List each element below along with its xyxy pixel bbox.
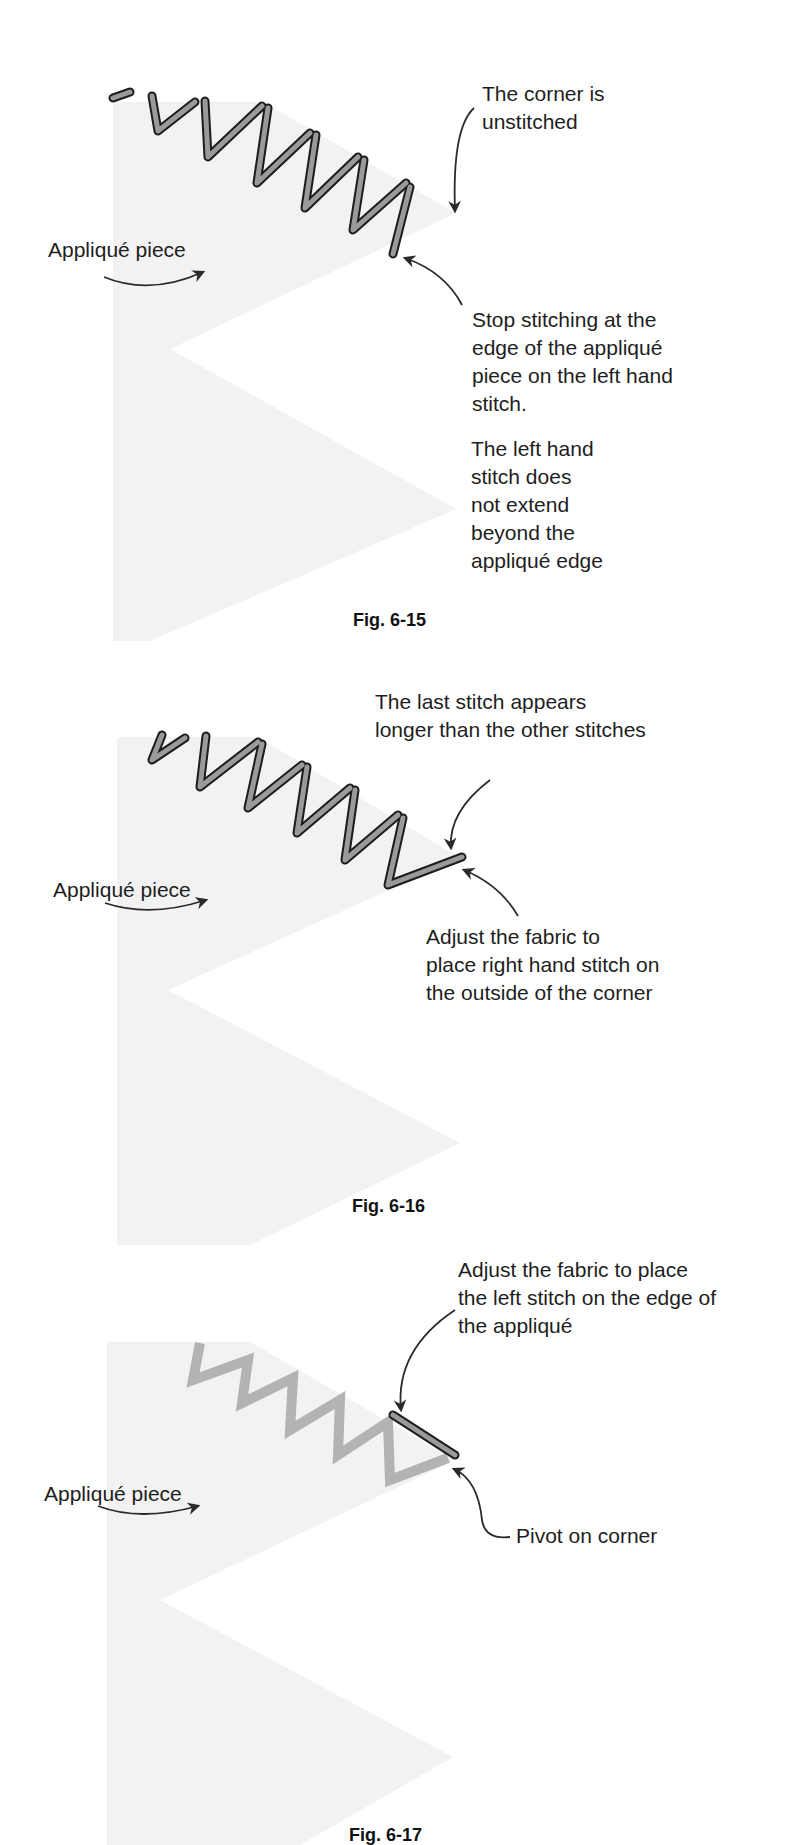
callout-pivot-on-corner: Pivot on corner bbox=[516, 1522, 657, 1550]
callout-last-stitch-longer: The last stitch appears longer than the … bbox=[375, 688, 646, 744]
applique-piece-label: Appliqué piece bbox=[53, 876, 191, 904]
diagram-canvas bbox=[0, 0, 795, 1845]
adjust-right-stitch-arrow bbox=[464, 870, 518, 916]
stop-stitching-arrow bbox=[405, 258, 462, 305]
callout-adjust-left-stitch: Adjust the fabric to place the left stit… bbox=[458, 1256, 716, 1340]
applique-piece-label: Appliqué piece bbox=[48, 236, 186, 264]
last-stitch-arrow bbox=[451, 780, 490, 848]
figure-caption: Fig. 6-17 bbox=[349, 1825, 422, 1845]
applique-piece-label: Appliqué piece bbox=[44, 1480, 182, 1508]
figure-caption: Fig. 6-16 bbox=[352, 1196, 425, 1217]
figure-6-15-art bbox=[104, 92, 474, 641]
callout-adjust-right-stitch: Adjust the fabric to place right hand st… bbox=[426, 923, 659, 1007]
pivot-arrow bbox=[454, 1469, 510, 1537]
figure-6-17-art bbox=[98, 1310, 510, 1845]
callout-corner-unstitched: The corner is unstitched bbox=[482, 80, 605, 136]
figure-caption: Fig. 6-15 bbox=[353, 610, 426, 631]
applique-piece-shape bbox=[117, 737, 460, 1245]
callout-stop-stitching: Stop stitching at the edge of the appliq… bbox=[472, 306, 673, 418]
adjust-left-stitch-arrow bbox=[400, 1310, 455, 1410]
callout-left-stitch-no-extend: The left hand stitch does not extend bey… bbox=[471, 435, 603, 575]
corner-arrow bbox=[455, 108, 474, 211]
